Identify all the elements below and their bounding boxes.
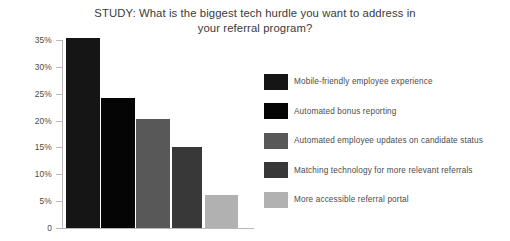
y-axis-tick-label: 0 [0,223,52,233]
y-axis-tick-label-wrap: 15% [0,147,52,157]
y-axis-tick-label-wrap: 20% [0,121,52,131]
legend-item-label: More accessible referral portal [294,195,409,204]
bar [66,38,100,228]
y-axis-tick [56,228,62,229]
legend-swatch-icon [264,74,288,90]
chart-title: STUDY: What is the biggest tech hurdle y… [60,6,450,36]
legend-item[interactable]: Matching technology for more relevant re… [264,162,473,179]
y-axis-tick-label: 15% [0,142,52,152]
y-axis-tick-label-wrap: 5% [0,201,52,211]
plot-area [62,38,253,228]
legend-item[interactable]: More accessible referral portal [264,191,409,208]
legend-swatch-icon [264,192,288,208]
y-axis-tick-label-wrap: 25% [0,94,52,104]
y-axis-tick-label: 20% [0,116,52,126]
legend-item-label: Matching technology for more relevant re… [294,166,473,175]
legend-item-label: Automated employee updates on candidate … [294,136,483,145]
bar [136,119,170,228]
legend-swatch-icon [264,133,288,149]
y-axis-tick-label-wrap: 30% [0,67,52,77]
y-axis-tick-label-wrap: 10% [0,174,52,184]
bar [101,98,135,228]
legend-item-label: Mobile-friendly employee experience [294,77,433,86]
y-axis-tick-label: 10% [0,169,52,179]
bar-chart: STUDY: What is the biggest tech hurdle y… [0,0,510,241]
legend-swatch-icon [264,103,288,119]
x-axis-line [62,228,254,229]
legend-item[interactable]: Mobile-friendly employee experience [264,73,433,90]
legend-item[interactable]: Automated bonus reporting [264,103,397,120]
y-axis-tick-label-wrap: 35% [0,40,52,50]
y-axis-tick-label-wrap: 0 [0,228,52,238]
y-axis-tick-label: 30% [0,62,52,72]
legend-swatch-icon [264,162,288,178]
y-axis-tick-label: 25% [0,89,52,99]
y-axis-tick-label: 35% [0,35,52,45]
legend-item[interactable]: Automated employee updates on candidate … [264,132,483,149]
bar [172,147,202,228]
y-axis-tick-label: 5% [0,196,52,206]
legend-item-label: Automated bonus reporting [294,107,397,116]
bar [205,195,238,228]
